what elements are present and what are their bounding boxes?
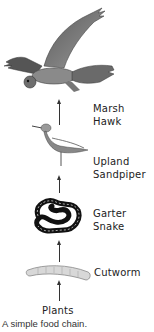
label-line: Plants — [42, 304, 74, 317]
hawk-icon — [2, 4, 120, 96]
label-line: Marsh — [93, 102, 124, 115]
label-line: Upland — [93, 155, 146, 168]
label-line: Garter — [93, 207, 126, 220]
figure-caption: A simple food chain. — [2, 318, 87, 329]
label-plants: Plants — [42, 304, 74, 317]
label-line: Cutworm — [94, 266, 141, 279]
label-line: Hawk — [93, 115, 124, 128]
label-cutworm: Cutworm — [94, 266, 141, 279]
label-upland-sandpiper: Upland Sandpiper — [93, 155, 146, 181]
arrow-up — [59, 179, 60, 193]
snake-icon — [30, 196, 82, 238]
sandpiper-icon — [30, 118, 92, 166]
label-line: Snake — [93, 220, 126, 233]
arrow-up — [59, 244, 60, 262]
label-marsh-hawk: Marsh Hawk — [93, 102, 124, 128]
label-garter-snake: Garter Snake — [93, 207, 126, 233]
label-line: Sandpiper — [93, 168, 146, 181]
arrow-up — [59, 284, 60, 301]
